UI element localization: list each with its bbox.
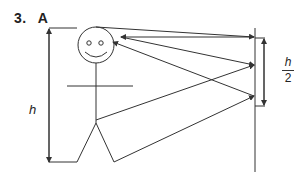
head [78, 27, 114, 63]
answer-letter: A [38, 10, 49, 26]
question-number: 3. [14, 10, 27, 26]
fraction-numerator: h [282, 56, 294, 69]
stick-figure [67, 27, 133, 162]
half-height-dimension-arrow [255, 38, 265, 106]
diagram: 3.A h h 2 [0, 0, 307, 179]
right-eye [99, 41, 103, 45]
height-dimension-arrow [49, 28, 77, 162]
smile [85, 52, 107, 57]
height-label: h [29, 103, 36, 116]
left-eye [87, 41, 91, 45]
left-leg [77, 123, 96, 162]
fraction-denominator: 2 [282, 72, 294, 85]
question-heading: 3.A [14, 11, 48, 25]
right-leg [96, 123, 114, 162]
mirror-ray-diagram [0, 0, 307, 179]
half-height-label: h 2 [282, 56, 294, 85]
light-rays [96, 27, 254, 162]
